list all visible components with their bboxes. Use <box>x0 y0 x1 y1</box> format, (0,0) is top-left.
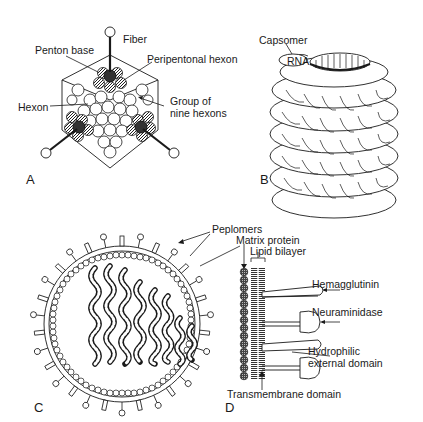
label-hemagglutinin: Hemagglutinin <box>312 278 379 290</box>
label-capsomer: Capsomer <box>259 34 307 46</box>
label-penton-base: Penton base <box>35 44 94 56</box>
label-hydrophilic: Hydrophilic <box>308 345 360 357</box>
label-external-domain: external domain <box>308 357 383 369</box>
label-nine-hexons: nine hexons <box>170 107 227 119</box>
label-fiber: Fiber <box>123 33 147 45</box>
label-rna: RNA <box>287 55 309 67</box>
panel-letter-b: B <box>260 172 269 187</box>
label-peripentonal-hexon: Peripentonal hexon <box>147 53 238 65</box>
panel-letter-c: C <box>34 400 43 415</box>
label-neuraminidase: Neuraminidase <box>312 306 383 318</box>
label-transmembrane-domain: Transmembrane domain <box>227 388 341 400</box>
label-hexon: Hexon <box>18 101 48 113</box>
label-group-of: Group of <box>170 95 211 107</box>
panel-b-helical-capsid <box>270 44 398 218</box>
panel-letter-d: D <box>225 400 234 415</box>
panel-c-enveloped-virion <box>30 232 240 416</box>
panel-letter-a: A <box>26 172 35 187</box>
label-lipid-bilayer: Lipid bilayer <box>250 245 306 257</box>
